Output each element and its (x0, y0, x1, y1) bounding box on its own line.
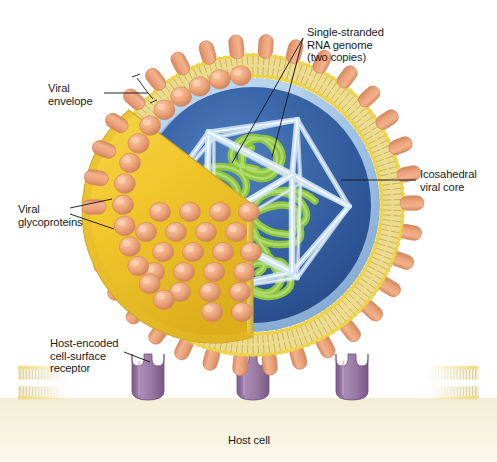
glycoprotein-knob (150, 202, 171, 221)
glycoprotein-knob (196, 222, 217, 241)
glycoprotein-knob (114, 174, 135, 194)
glycoprotein-knob (113, 195, 134, 215)
glycoprotein-knob (120, 153, 141, 173)
glycoprotein-knob (234, 262, 255, 281)
glycoprotein-knob (204, 262, 225, 281)
host-cell-cytoplasm (0, 398, 497, 462)
glycoprotein-knob (139, 274, 160, 294)
glycoprotein-knob (119, 237, 140, 257)
glycoprotein-knob (140, 116, 161, 136)
glycoprotein-knob (136, 222, 157, 241)
label-rna-genome: Single-stranded RNA genome (two copies) (307, 26, 384, 64)
glycoprotein-knob (200, 282, 221, 301)
glycoprotein-spike (400, 196, 424, 211)
glycoprotein-knob (153, 242, 174, 261)
label-viral-glycoproteins: Viral glycoproteins (18, 203, 83, 228)
glycoprotein-knob (213, 242, 234, 261)
glycoprotein-knob (210, 202, 231, 221)
label-host-receptor: Host-encoded cell-surface receptor (50, 337, 118, 375)
glycoprotein-knob (128, 134, 149, 154)
glycoprotein-knob (209, 70, 230, 90)
glycoprotein-spike (258, 34, 274, 59)
virion (82, 34, 424, 376)
glycoprotein-knob (230, 282, 251, 301)
glycoprotein-knob (239, 202, 260, 221)
glycoprotein-knob (171, 87, 192, 107)
glycoprotein-knob (189, 77, 210, 97)
glycoprotein-knob (154, 290, 175, 310)
label-viral-envelope: Viral envelope (48, 82, 93, 107)
glycoprotein-knob (180, 202, 201, 221)
label-icosahedral-core: Icosahedral viral core (420, 168, 477, 193)
glycoprotein-knob (241, 242, 262, 261)
glycoprotein-knob (174, 262, 195, 281)
glycoprotein-knob (226, 222, 247, 241)
glycoprotein-knob (114, 216, 135, 236)
glycoprotein-knob (183, 242, 204, 261)
glycoprotein-knob (166, 222, 187, 241)
glycoprotein-knob (128, 256, 149, 276)
label-host-cell: Host cell (228, 434, 270, 447)
glycoprotein-knob (202, 302, 223, 321)
glycoprotein-spike (82, 200, 106, 215)
glycoprotein-knob (232, 302, 253, 321)
virus-host-cell-diagram (0, 0, 497, 462)
glycoprotein-knob (154, 100, 175, 120)
glycoprotein-knob (230, 66, 251, 86)
host-cell-surface-receptor (336, 354, 368, 400)
